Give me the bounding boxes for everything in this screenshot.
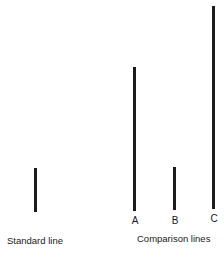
standard-line xyxy=(34,168,37,212)
comparison-line-a xyxy=(133,67,136,211)
caption-comparison-lines: Comparison lines xyxy=(137,233,210,244)
comparison-line-b xyxy=(173,167,176,210)
caption-standard-line: Standard line xyxy=(7,235,63,246)
comparison-line-c xyxy=(212,6,215,209)
label-a: A xyxy=(129,215,141,226)
label-b: B xyxy=(169,215,181,226)
label-c: C xyxy=(208,213,220,224)
